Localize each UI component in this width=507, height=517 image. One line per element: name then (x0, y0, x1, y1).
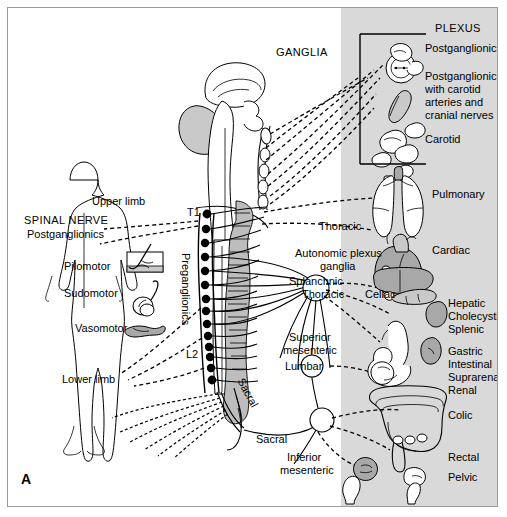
legend-postganglionics-carotid-l4: cranial nerves (425, 109, 493, 121)
label-upper-limb: Upper limb (92, 195, 145, 207)
organ-lungs (373, 167, 423, 237)
organ-eye-group (386, 44, 423, 83)
organ-spleen (426, 302, 447, 327)
cephalic-dotted (266, 64, 384, 204)
label-pilomotor: Pilomotor (64, 260, 110, 272)
label-hepatic: Hepatic (448, 297, 485, 309)
label-sacral: Sacral (256, 433, 287, 445)
label-postganglionics: Postganglionics (27, 228, 104, 240)
label-superior-mesenteric-l2: mesenteric (283, 344, 337, 356)
label-suprarenal: Suprarenal (448, 371, 498, 383)
legend-postganglionics-carotid-l3: arteries and (425, 96, 483, 108)
organ-colon (369, 386, 446, 472)
label-superior-mesenteric-l1: Superior (289, 331, 331, 343)
organ-bladder-pelvic (343, 458, 426, 504)
legend-postganglionics: Postganglionics (425, 42, 498, 54)
legend-postganglionics-carotid-l2: with carotid (425, 83, 481, 95)
label-l2: L2 (186, 348, 198, 360)
label-cholecystic: Cholecystic (448, 310, 498, 322)
inferior-mesenteric-ganglion (310, 408, 334, 432)
plexus-heading: PLEXUS (435, 22, 481, 34)
label-autonomic-plexus-ganglia-l1: Autonomic plexus (295, 247, 382, 259)
visceral-dotted (262, 198, 400, 466)
label-cardiac: Cardiac (432, 244, 470, 256)
body-icon-group (121, 238, 169, 348)
figure-root: .ln{fill:none;stroke:#000;stroke-width:1… (0, 0, 507, 517)
panel-label-a: A (21, 472, 31, 488)
cervical-ganglia (258, 127, 272, 209)
label-preganglionics: Preganglionics (180, 253, 192, 325)
sacral-fibres (112, 394, 228, 458)
brain-and-brainstem (179, 63, 265, 394)
label-gastric: Gastric (448, 345, 483, 357)
lacrimal-gland-icon (391, 44, 412, 62)
label-rectal: Rectal (448, 451, 479, 463)
label-splanchnic: Splanchnic (289, 275, 343, 287)
legend-carotid: Carotid (425, 133, 460, 145)
label-spinal-nerve: SPINAL NERVE (24, 214, 108, 226)
label-inferior-mesenteric-l2: mesenteric (280, 464, 334, 476)
label-renal: Renal (448, 384, 477, 396)
label-lower-limb: Lower limb (62, 373, 115, 385)
label-thoracic: Thoracic (319, 220, 361, 232)
label-t1: T1 (187, 206, 200, 218)
organ-carotid-artery (389, 91, 411, 123)
label-sudomotor: Sudomotor (64, 287, 118, 299)
label-splanchnic-thoracic: Thoracic (302, 288, 344, 300)
label-intestinal: Intestinal (448, 358, 492, 370)
legend-postganglionics-carotid-l1: Postganglionics (425, 70, 498, 82)
label-splenic: Splenic (448, 323, 484, 335)
figure-frame: .ln{fill:none;stroke:#000;stroke-width:1… (7, 7, 498, 507)
label-vasomotor: Vasomotor (75, 322, 127, 334)
ganglia-heading: GANGLIA (276, 46, 328, 58)
label-pulmonary: Pulmonary (432, 188, 485, 200)
label-autonomic-plexus-ganglia-l2: ganglia (320, 260, 355, 272)
label-pelvic: Pelvic (448, 471, 477, 483)
anatomy-drawing: .ln{fill:none;stroke:#000;stroke-width:1… (8, 8, 497, 506)
label-inferior-mesenteric-l1: Inferior (287, 451, 321, 463)
organ-kidney (421, 338, 441, 365)
label-lumbar: Lumbar (285, 360, 322, 372)
label-colic: Colic (448, 409, 472, 421)
label-celiac: Celiac (365, 288, 396, 300)
